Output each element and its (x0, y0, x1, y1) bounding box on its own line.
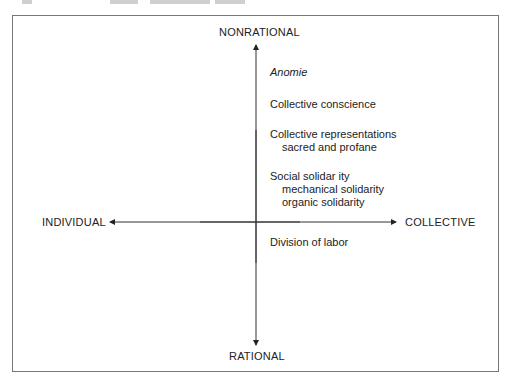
concept-subitem: sacred and profane (270, 141, 397, 154)
concept-social-solidarity: Social solidar ity mechanical solidarity… (270, 170, 384, 209)
concept-subitem: organic solidarity (270, 196, 384, 209)
axes-arrows (0, 0, 514, 384)
concept-collective-representations: Collective representations sacred and pr… (270, 128, 397, 154)
axis-label-left: INDIVIDUAL (42, 216, 106, 228)
axis-label-right: COLLECTIVE (405, 216, 475, 228)
concept-subitem: mechanical solidarity (270, 183, 384, 196)
concept-collective-conscience: Collective conscience (270, 98, 376, 111)
axis-label-bottom: RATIONAL (229, 350, 285, 362)
concept-division-of-labor: Division of labor (270, 236, 348, 249)
concept-label: Collective representations (270, 128, 397, 140)
concept-label: Social solidar ity (270, 170, 349, 182)
concept-anomie: Anomie (270, 66, 307, 79)
axis-label-top: NONRATIONAL (219, 26, 300, 38)
